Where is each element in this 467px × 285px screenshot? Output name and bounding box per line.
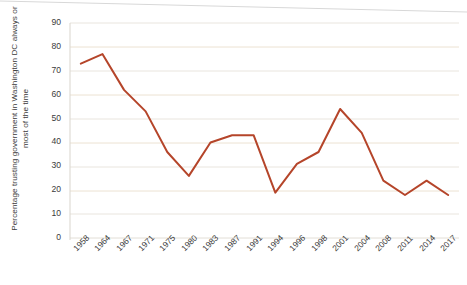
- y-tick-label: 70: [33, 65, 61, 75]
- y-tick-label: 90: [33, 17, 61, 27]
- y-tick-label: 20: [33, 184, 61, 194]
- chart-container: Percentage trusting government in Washin…: [0, 0, 467, 285]
- y-tick-label: 50: [33, 113, 61, 123]
- data-series-line: [81, 54, 448, 195]
- y-tick-label: 10: [33, 208, 61, 218]
- y-tick-label: 60: [33, 89, 61, 99]
- y-tick-label: 30: [33, 160, 61, 170]
- y-gridlines: [70, 23, 459, 238]
- y-tick-label: 40: [33, 136, 61, 146]
- y-tick-label: 80: [33, 41, 61, 51]
- y-tick-label: 0: [33, 232, 61, 242]
